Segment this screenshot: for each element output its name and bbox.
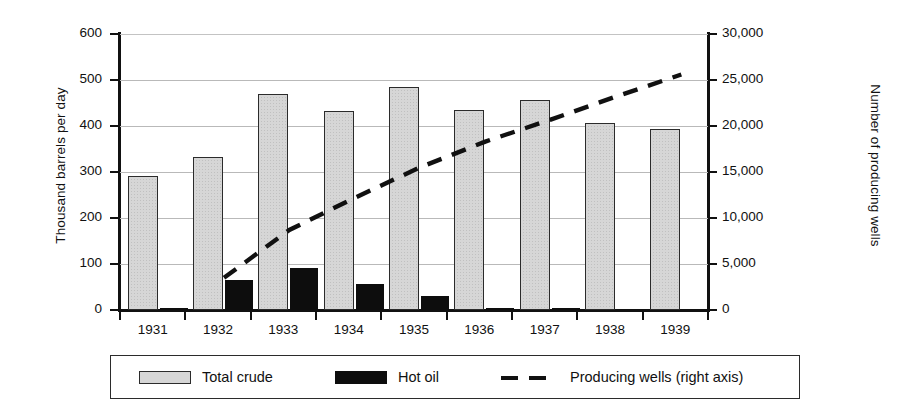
chart-legend: Total crude Hot oil Producing wells (rig… [110, 355, 800, 399]
left-axis-tick-label: 300 [38, 163, 102, 178]
left-axis-tick [110, 33, 118, 35]
right-axis-tick-label: 15,000 [722, 163, 763, 178]
right-axis-tick-label: 5,000 [722, 255, 756, 270]
left-axis-tick [110, 171, 118, 173]
legend-item-total-crude: Total crude [139, 369, 273, 385]
x-axis-tick-label-1931: 1931 [118, 322, 188, 337]
x-axis-tick [707, 311, 709, 320]
left-axis-tick [110, 79, 118, 81]
bar-total-crude-1936 [454, 110, 484, 310]
chart-figure: Thousand barrels per day Number of produ… [0, 0, 911, 413]
bar-hot-oil-1931 [160, 308, 188, 310]
left-axis-tick-label: 100 [38, 255, 102, 270]
legend-item-hot-oil: Hot oil [335, 369, 439, 385]
left-axis-tick [110, 309, 118, 311]
left-axis-tick-label: 200 [38, 209, 102, 224]
legend-label-hot-oil: Hot oil [398, 369, 439, 385]
x-axis-tick-label-1934: 1934 [314, 322, 384, 337]
legend-label-producing-wells: Producing wells (right axis) [570, 369, 743, 385]
left-axis-tick [110, 125, 118, 127]
right-axis-tick [709, 309, 717, 311]
x-axis-tick [511, 311, 513, 320]
x-axis-tick-label-1938: 1938 [575, 322, 645, 337]
bar-total-crude-1939 [650, 129, 680, 310]
left-axis-tick [110, 263, 118, 265]
right-axis-tick [709, 263, 717, 265]
left-axis-tick-label: 500 [38, 71, 102, 86]
x-axis-tick-label-1939: 1939 [640, 322, 710, 337]
x-axis-tick-label-1935: 1935 [379, 322, 449, 337]
x-axis-tick [446, 311, 448, 320]
x-axis-tick [576, 311, 578, 320]
bar-total-crude-1934 [324, 111, 354, 310]
bar-total-crude-1933 [258, 94, 288, 310]
bar-hot-oil-1935 [421, 296, 449, 310]
legend-item-producing-wells: Producing wells (right axis) [501, 369, 743, 385]
bar-hot-oil-1936 [486, 308, 514, 310]
gridline [120, 34, 708, 35]
left-axis-tick-label: 0 [38, 301, 102, 316]
right-axis-tick [709, 171, 717, 173]
bar-total-crude-1938 [585, 123, 615, 310]
right-axis-tick [709, 125, 717, 127]
bar-hot-oil-1932 [225, 280, 253, 310]
x-axis-tick-label-1936: 1936 [444, 322, 514, 337]
legend-swatch-bar-dark-icon [335, 371, 387, 384]
x-axis-tick [380, 311, 382, 320]
bar-total-crude-1932 [193, 157, 223, 310]
left-axis-tick-label: 600 [38, 25, 102, 40]
legend-swatch-dashed-line-icon [501, 371, 559, 384]
x-axis-tick-label-1937: 1937 [510, 322, 580, 337]
right-axis-tick [709, 33, 717, 35]
bar-total-crude-1935 [389, 87, 419, 310]
right-axis-tick-label: 30,000 [722, 25, 763, 40]
right-axis-tick-label: 10,000 [722, 209, 763, 224]
right-axis-tick-label: 25,000 [722, 71, 763, 86]
right-axis-title: Number of producing wells [868, 36, 883, 296]
x-axis-tick-label-1932: 1932 [183, 322, 253, 337]
bar-hot-oil-1933 [290, 268, 318, 310]
x-axis-tick [315, 311, 317, 320]
plot-area [120, 34, 708, 310]
legend-swatch-bar-light-icon [139, 371, 191, 384]
gridline [120, 80, 708, 81]
right-axis-tick-label: 20,000 [722, 117, 763, 132]
bar-total-crude-1931 [128, 176, 158, 310]
right-axis-tick [709, 217, 717, 219]
legend-label-total-crude: Total crude [202, 369, 273, 385]
bar-hot-oil-1934 [356, 284, 384, 310]
left-axis-tick-label: 400 [38, 117, 102, 132]
x-axis-tick-label-1933: 1933 [248, 322, 318, 337]
bar-hot-oil-1937 [552, 308, 580, 310]
x-axis-tick [184, 311, 186, 320]
x-axis-tick [250, 311, 252, 320]
x-axis-tick [642, 311, 644, 320]
right-axis-tick [709, 79, 717, 81]
left-axis-tick [110, 217, 118, 219]
bar-total-crude-1937 [520, 100, 550, 310]
x-axis-tick [119, 311, 121, 320]
right-axis-tick-label: 0 [722, 301, 730, 316]
